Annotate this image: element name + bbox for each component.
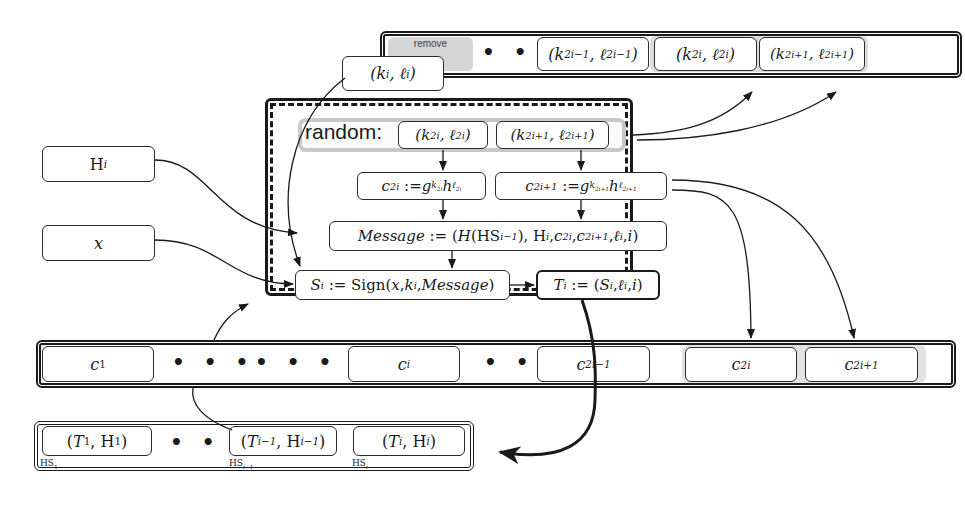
arrows-layer [0,0,965,516]
